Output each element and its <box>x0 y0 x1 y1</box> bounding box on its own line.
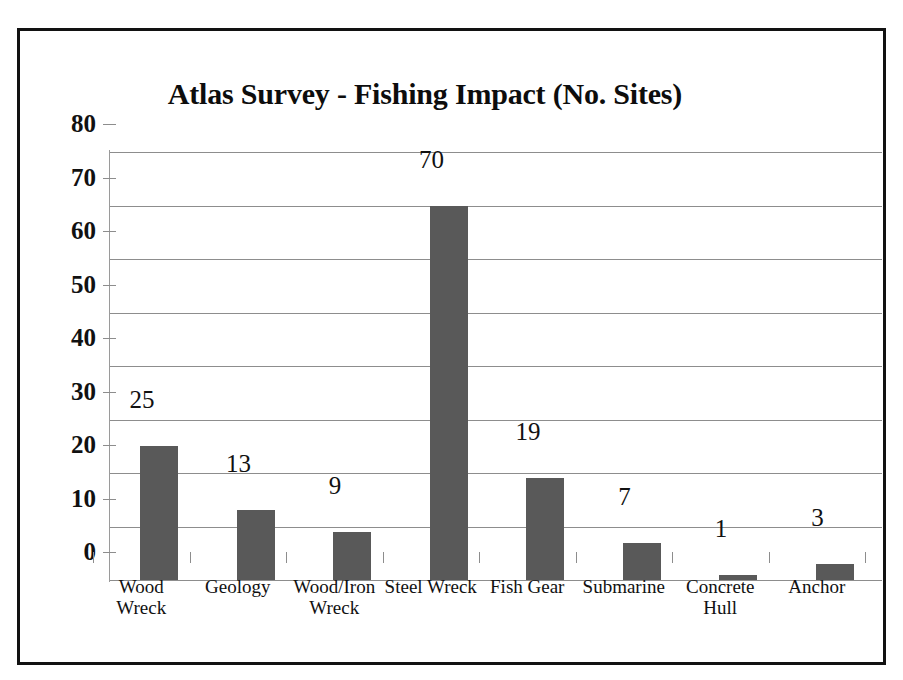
x-axis-tick <box>672 552 673 563</box>
y-axis-tick-label: 40 <box>50 325 96 350</box>
bar-value-label: 9 <box>276 473 394 498</box>
gridline <box>110 366 882 367</box>
bar-value-label: 3 <box>759 505 877 530</box>
y-axis-tick-label: 50 <box>50 272 96 297</box>
bar <box>237 510 275 580</box>
chart-page: Atlas Survey - Fishing Impact (No. Sites… <box>0 0 903 680</box>
bar <box>333 532 371 580</box>
bar-value-label: 7 <box>566 484 684 509</box>
bar <box>526 478 564 580</box>
chart-frame-border: Atlas Survey - Fishing Impact (No. Sites… <box>17 28 886 665</box>
y-axis-tick <box>103 178 116 179</box>
x-axis-tick <box>93 552 94 563</box>
y-axis-tick <box>103 338 116 339</box>
gridline <box>110 259 882 260</box>
x-axis-tick <box>865 552 866 563</box>
gridline <box>110 206 882 207</box>
gridline <box>110 152 882 153</box>
x-axis-tick <box>286 552 287 563</box>
x-axis-tick <box>769 552 770 563</box>
y-axis-tick-label: 60 <box>50 218 96 243</box>
x-axis-tick <box>190 552 191 563</box>
y-axis-tick-label: 80 <box>50 111 96 136</box>
y-axis-tick-label: 20 <box>50 432 96 457</box>
x-axis-tick <box>576 552 577 563</box>
y-axis-tick <box>103 445 116 446</box>
bar <box>140 446 178 580</box>
y-axis-tick <box>103 499 116 500</box>
chart-title: Atlas Survey - Fishing Impact (No. Sites… <box>80 77 770 111</box>
bar-value-label: 70 <box>373 147 491 172</box>
bar-value-label: 25 <box>83 387 201 412</box>
bar <box>623 543 661 580</box>
gridline <box>110 313 882 314</box>
bar <box>430 206 468 581</box>
x-axis-category-label: Anchor <box>755 576 880 597</box>
y-axis-tick-label: 70 <box>50 165 96 190</box>
y-axis-tick <box>103 552 116 553</box>
y-axis-tick-label: 0 <box>50 539 96 564</box>
bar-value-label: 19 <box>469 419 587 444</box>
y-axis-tick <box>103 285 116 286</box>
y-axis-tick-label: 10 <box>50 486 96 511</box>
y-axis-tick <box>103 124 116 125</box>
x-axis-tick <box>479 552 480 563</box>
y-axis-tick <box>103 231 116 232</box>
x-axis-tick <box>383 552 384 563</box>
